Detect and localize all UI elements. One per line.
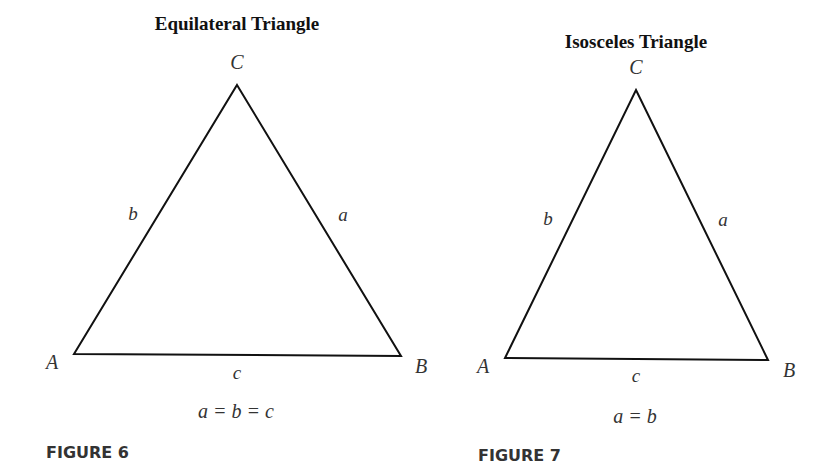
- side-a-label: a: [718, 209, 728, 230]
- vertex-c-label: C: [230, 51, 244, 73]
- vertex-b-label: B: [783, 359, 795, 381]
- side-a-label: a: [338, 204, 348, 225]
- side-b-label: b: [128, 203, 138, 224]
- vertex-c-label: C: [629, 56, 643, 78]
- figure-7-isosceles: Isosceles Triangle C A B b a c a = b FIG…: [475, 31, 795, 465]
- figure-6-equation: a = b = c: [198, 400, 274, 422]
- side-c-label: c: [632, 365, 641, 386]
- vertex-a-label: A: [44, 351, 59, 373]
- triangle-figures-canvas: Equilateral Triangle C A B b a c a = b =…: [0, 0, 827, 475]
- side-c-label: c: [233, 362, 242, 383]
- figure-7-caption: FIGURE 7: [478, 446, 561, 465]
- equilateral-triangle-shape: [74, 85, 401, 356]
- figure-7-title: Isosceles Triangle: [565, 31, 707, 52]
- figure-6-equilateral: Equilateral Triangle C A B b a c a = b =…: [44, 13, 427, 462]
- figure-7-equation: a = b: [613, 405, 657, 427]
- side-b-label: b: [543, 208, 553, 229]
- figures-page: Equilateral Triangle C A B b a c a = b =…: [0, 0, 827, 475]
- vertex-b-label: B: [415, 355, 427, 377]
- figure-6-caption: FIGURE 6: [46, 443, 129, 462]
- figure-6-title: Equilateral Triangle: [155, 13, 320, 34]
- vertex-a-label: A: [475, 355, 490, 377]
